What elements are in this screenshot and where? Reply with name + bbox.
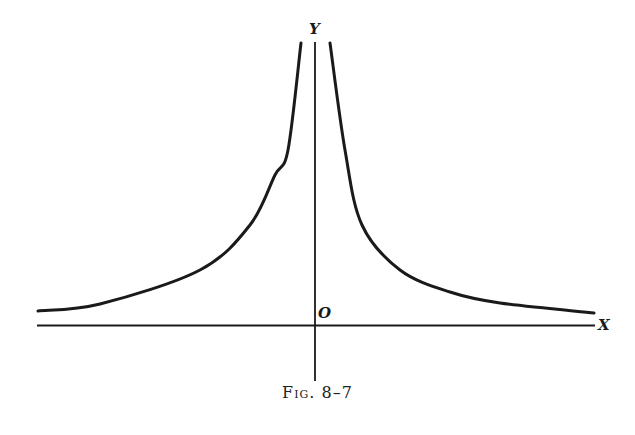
curve-left-branch — [38, 43, 301, 311]
origin-label: O — [318, 306, 331, 321]
figure-caption: Fig. 8–7 — [0, 383, 635, 402]
y-axis-label: Y — [309, 22, 320, 37]
x-axis-label: X — [598, 318, 610, 333]
figure-plot — [0, 0, 635, 435]
curve-right-branch — [330, 43, 594, 313]
